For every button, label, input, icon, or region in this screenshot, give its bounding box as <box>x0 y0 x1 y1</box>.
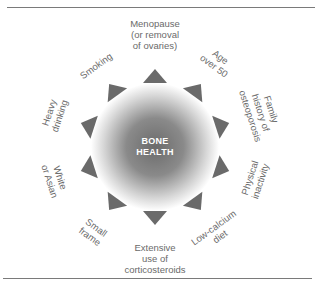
center-label-line2: HEALTH <box>136 147 174 157</box>
risk-factor-text: of ovaries) <box>133 40 177 51</box>
risk-factor-label: Heavydrinking <box>39 95 70 133</box>
risk-factor-label: Smallframe <box>77 216 110 248</box>
risk-factor-text: Menopause <box>130 18 180 29</box>
risk-factor-label: Physicalinactivity <box>239 158 271 200</box>
risk-factor-label: Smoking <box>78 50 114 81</box>
risk-factor-text: use of <box>142 253 168 264</box>
risk-factor-label: Extensiveuse ofcorticosteroids <box>124 242 185 275</box>
center-label-line1: BONE <box>141 136 168 146</box>
risk-factor-text: Smoking <box>78 50 114 81</box>
risk-factor-text: (or removal <box>131 29 179 40</box>
risk-factor-label: Low-calciumdiet <box>189 207 245 256</box>
bone-health-diagram: Menopause(or removalof ovaries)Ageover 5… <box>0 0 315 285</box>
risk-factor-label: Familyhistory ofosteoporosis <box>237 82 285 144</box>
risk-triangle <box>143 211 167 225</box>
risk-factor-text: corticosteroids <box>124 264 185 275</box>
risk-triangle <box>143 69 167 83</box>
risk-factor-text: Extensive <box>134 242 175 253</box>
risk-factor-label: Ageover 50 <box>198 43 237 79</box>
risk-factor-label: Whiteor Asian <box>39 160 71 199</box>
risk-factor-label: Menopause(or removalof ovaries) <box>130 18 180 51</box>
